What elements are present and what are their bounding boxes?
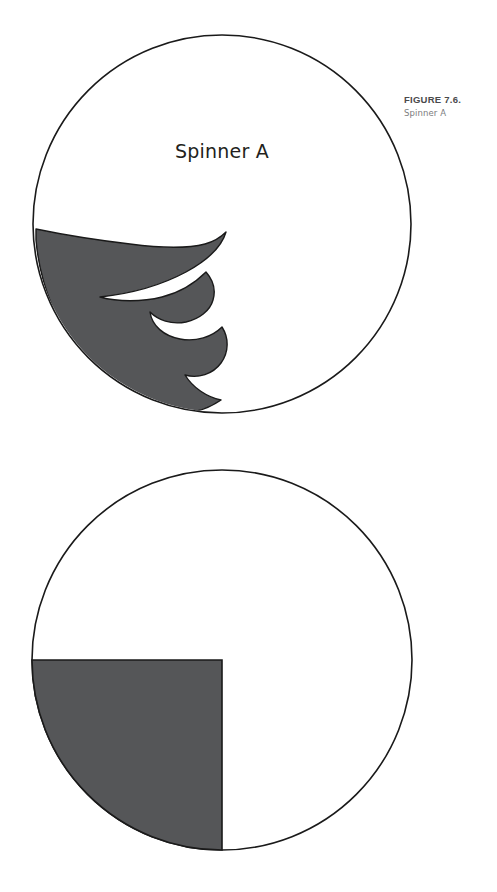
caption-figure-a-title: FIGURE 7.6. — [404, 94, 497, 106]
spinner-b-diagram — [0, 440, 420, 892]
spinner-b-shaded-quadrant — [32, 660, 222, 850]
spinner-a-diagram — [0, 0, 420, 460]
figure-page: Spinner A FIGURE 7.6. Spinner A Spinner … — [0, 0, 497, 892]
spinner-b-stage — [0, 440, 420, 892]
caption-figure-a: FIGURE 7.6. Spinner A — [404, 94, 497, 119]
spinner-a-stage — [0, 0, 420, 452]
figure-spinner-a: Spinner A FIGURE 7.6. Spinner A — [0, 0, 497, 460]
caption-figure-a-subtitle: Spinner A — [404, 108, 497, 119]
spinner-a-label: Spinner A — [62, 140, 382, 162]
figure-spinner-b: Spinner B FIGURE 7.8. Spinner B — [0, 440, 497, 892]
